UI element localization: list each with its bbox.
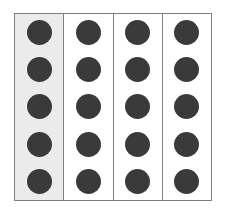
grid-column-4[interactable] xyxy=(163,14,211,200)
dot-marker xyxy=(27,169,52,194)
dot-marker xyxy=(27,20,52,45)
dot-marker xyxy=(27,94,52,119)
dot-marker xyxy=(76,20,101,45)
dot-marker xyxy=(76,94,101,119)
dot-marker xyxy=(27,57,52,82)
dot-marker xyxy=(174,94,199,119)
dot-marker xyxy=(125,20,150,45)
dot-marker xyxy=(174,57,199,82)
grid-column-3[interactable] xyxy=(114,14,163,200)
dot-marker xyxy=(174,132,199,157)
grid-column-1[interactable] xyxy=(15,14,64,200)
dot-marker xyxy=(76,169,101,194)
dot-marker xyxy=(174,169,199,194)
dot-marker xyxy=(125,132,150,157)
dot-grid-figure xyxy=(14,13,212,201)
dot-marker xyxy=(174,20,199,45)
dot-marker xyxy=(125,169,150,194)
dot-marker xyxy=(76,57,101,82)
dot-marker xyxy=(27,132,52,157)
dot-marker xyxy=(76,132,101,157)
grid-column-2[interactable] xyxy=(64,14,113,200)
dot-marker xyxy=(125,57,150,82)
dot-marker xyxy=(125,94,150,119)
